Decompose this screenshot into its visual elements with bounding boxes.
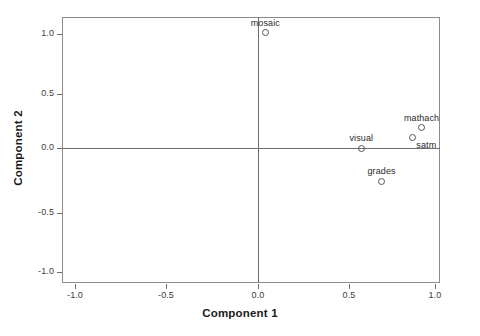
x-axis-title: Component 1 (0, 307, 480, 319)
x-tick-label: -0.5 (146, 290, 186, 300)
data-point-visual[interactable] (358, 145, 365, 152)
data-point-mosaic[interactable] (262, 29, 269, 36)
x-tick-label: -1.0 (55, 290, 95, 300)
x-tick-mark (75, 284, 76, 289)
data-point-label-mathach: mathach (404, 113, 439, 123)
y-tick-label: -1.0 (18, 266, 54, 276)
x-tick-mark (349, 284, 350, 289)
x-tick-label: 0.0 (238, 290, 278, 300)
component-scatter-plot: -1.0 -0.5 0.0 0.5 1.0 1.0 0.5 0.0 -0.5 -… (0, 0, 480, 336)
x-tick-label: 0.5 (329, 290, 369, 300)
y-tick-mark (57, 213, 62, 214)
y-axis-title: Component 2 (12, 68, 24, 228)
data-point-label-mosaic: mosaic (251, 18, 280, 28)
data-point-label-visual: visual (350, 133, 374, 143)
data-point-grades[interactable] (378, 178, 385, 185)
y-tick-mark (57, 34, 62, 35)
y-tick-label: 1.0 (18, 28, 54, 38)
plot-frame (62, 17, 440, 283)
x-tick-label: 1.0 (415, 290, 455, 300)
horizontal-zero-reference-line (62, 148, 440, 149)
x-tick-mark (166, 284, 167, 289)
data-point-label-grades: grades (367, 166, 395, 176)
data-point-label-satm: satm (416, 140, 436, 150)
y-tick-mark (57, 148, 62, 149)
x-tick-mark (258, 284, 259, 289)
y-tick-mark (57, 94, 62, 95)
y-tick-mark (57, 272, 62, 273)
vertical-zero-reference-line (258, 17, 259, 283)
x-tick-mark (435, 284, 436, 289)
